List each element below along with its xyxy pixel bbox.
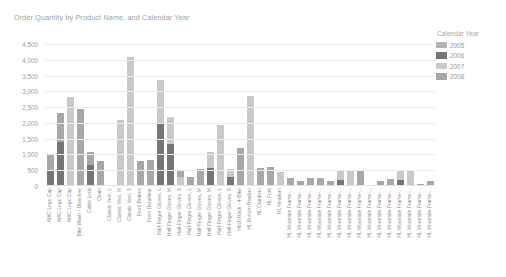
x-axis-tick-label: HL Mountain Frame-... bbox=[347, 188, 352, 238]
legend-item[interactable]: 2007 bbox=[436, 62, 504, 71]
x-axis-labels: AWC Logo CapAWC Logo CapAWC Logo CapBike… bbox=[45, 188, 435, 276]
legend-item-label: 2007 bbox=[450, 63, 464, 70]
bar-group[interactable] bbox=[217, 125, 224, 186]
x-axis-tick-label: Chain bbox=[97, 188, 102, 201]
bar-group[interactable] bbox=[117, 120, 124, 186]
bar-group[interactable] bbox=[167, 117, 174, 186]
bar-group[interactable] bbox=[177, 171, 184, 186]
x-axis-tick-label: HL Mountain Frame-... bbox=[357, 188, 362, 238]
legend-item[interactable]: 2005 bbox=[436, 41, 504, 50]
gridline bbox=[45, 76, 435, 77]
x-axis-tick-label: Front Derailleur bbox=[147, 188, 152, 222]
gridline bbox=[45, 123, 435, 124]
x-axis-tick-label: Half-Finger Gloves, L bbox=[187, 188, 192, 235]
bar-segment[interactable] bbox=[67, 97, 74, 186]
bar-group[interactable] bbox=[57, 113, 64, 186]
x-axis-tick-label: HL Headset bbox=[277, 188, 282, 214]
bar-segment[interactable] bbox=[47, 170, 54, 186]
bar-segment[interactable] bbox=[337, 170, 344, 180]
x-axis-tick-label: Classic Vest, S bbox=[127, 188, 132, 221]
x-axis-tick-label: HL Mountain Frame-... bbox=[317, 188, 322, 238]
y-axis-tick-label: 500 bbox=[27, 167, 38, 174]
x-axis-tick-label: HL Crankset bbox=[257, 188, 262, 216]
bar-segment[interactable] bbox=[407, 170, 414, 186]
y-axis-tick-label: 1,000 bbox=[22, 151, 38, 158]
bar-segment[interactable] bbox=[157, 80, 164, 124]
y-axis-tick-label: 2,500 bbox=[22, 104, 38, 111]
bar-segment[interactable] bbox=[167, 117, 174, 144]
legend-item[interactable]: 2008 bbox=[436, 72, 504, 81]
y-axis-tick-label: 3,500 bbox=[22, 72, 38, 79]
x-axis-tick-label: HL Mountain Frame-... bbox=[417, 188, 422, 238]
bar-segment[interactable] bbox=[47, 154, 54, 170]
bar-group[interactable] bbox=[357, 170, 364, 186]
bar-group[interactable] bbox=[347, 170, 354, 186]
x-axis-tick-label: HL Fork bbox=[267, 188, 272, 206]
bar-segment[interactable] bbox=[357, 170, 364, 186]
x-axis-tick-label: HL Mountain Frame-... bbox=[367, 188, 372, 238]
x-axis-tick-label: Half-Finger Gloves, L bbox=[157, 188, 162, 235]
x-axis-tick-label: HL Mountain Frame-... bbox=[387, 188, 392, 238]
bar-segment[interactable] bbox=[347, 170, 354, 186]
x-axis-tick-label: Half-Finger Gloves, S bbox=[227, 188, 232, 236]
bar-segment[interactable] bbox=[147, 160, 154, 186]
x-axis-tick-label: HL Mountain Frame-... bbox=[377, 188, 382, 238]
bar-group[interactable] bbox=[407, 170, 414, 186]
legend-item-label: 2008 bbox=[450, 73, 464, 80]
x-axis-tick-label: Bike Wash - Dissolver bbox=[77, 188, 82, 237]
legend-swatch-icon bbox=[436, 42, 447, 49]
bar-group[interactable] bbox=[207, 152, 214, 186]
bar-segment[interactable] bbox=[77, 109, 84, 186]
bar-segment[interactable] bbox=[97, 161, 104, 186]
bar-segment[interactable] bbox=[277, 172, 284, 186]
plot-area bbox=[45, 44, 435, 186]
bar-segment[interactable] bbox=[57, 113, 64, 142]
legend-swatch-icon bbox=[436, 73, 447, 80]
bar-segment[interactable] bbox=[57, 142, 64, 186]
bar-group[interactable] bbox=[97, 161, 104, 186]
bar-segment[interactable] bbox=[87, 165, 94, 186]
legend-item[interactable]: 2006 bbox=[436, 51, 504, 60]
y-axis-tick-label: 2,000 bbox=[22, 119, 38, 126]
legend-swatch-icon bbox=[436, 63, 447, 70]
bar-group[interactable] bbox=[147, 160, 154, 186]
y-axis-tick-label: 0 bbox=[34, 183, 38, 190]
bar-group[interactable] bbox=[247, 96, 254, 186]
x-axis-tick-label: Cable Lock bbox=[87, 188, 92, 213]
bar-segment[interactable] bbox=[137, 161, 144, 186]
bar-group[interactable] bbox=[87, 152, 94, 186]
bar-segment[interactable] bbox=[217, 125, 224, 186]
x-axis-tick-label: Front Brakes bbox=[137, 188, 142, 217]
x-axis-tick-label: AWC Logo Cap bbox=[57, 188, 62, 223]
bar-group[interactable] bbox=[397, 170, 404, 186]
x-axis-tick-label: Classic Vest, M bbox=[117, 188, 122, 222]
bar-group[interactable] bbox=[227, 169, 234, 186]
x-axis-tick-label: Hitch Rack - 4-Bike bbox=[237, 188, 242, 231]
bar-group[interactable] bbox=[137, 161, 144, 186]
bar-group[interactable] bbox=[277, 172, 284, 186]
bar-group[interactable] bbox=[197, 169, 204, 186]
bar-group[interactable] bbox=[67, 97, 74, 186]
x-axis-tick-label: Half-Finger Gloves, S bbox=[177, 188, 182, 236]
gridline bbox=[45, 107, 435, 108]
bar-group[interactable] bbox=[337, 170, 344, 186]
x-axis-tick-label: HL Mountain Frame-... bbox=[337, 188, 342, 238]
y-axis: 05001,0001,5002,0002,5003,0003,5004,0004… bbox=[0, 44, 42, 186]
x-axis-tick-label: AWC Logo Cap bbox=[47, 188, 52, 223]
axis-baseline bbox=[45, 185, 435, 186]
gridline bbox=[45, 44, 435, 45]
bar-series-container bbox=[45, 44, 435, 186]
x-axis-tick-label: HL Mountain Frame-... bbox=[427, 188, 432, 238]
bar-group[interactable] bbox=[77, 109, 84, 186]
bar-segment[interactable] bbox=[247, 96, 254, 186]
chart-title: Order Quantity by Product Name, and Cale… bbox=[14, 13, 190, 22]
legend-title: Calendar Year bbox=[436, 30, 504, 37]
gridline bbox=[45, 139, 435, 140]
bar-segment[interactable] bbox=[197, 169, 204, 186]
bar-segment[interactable] bbox=[167, 144, 174, 186]
x-axis-tick-label: HL Mountain Frame-... bbox=[297, 188, 302, 238]
x-axis-tick-label: HL Bottom Bracket bbox=[247, 188, 252, 230]
bar-segment[interactable] bbox=[117, 120, 124, 186]
x-axis-tick-label: HL Mountain Frame-... bbox=[327, 188, 332, 238]
legend-items: 2005200620072008 bbox=[436, 41, 504, 82]
